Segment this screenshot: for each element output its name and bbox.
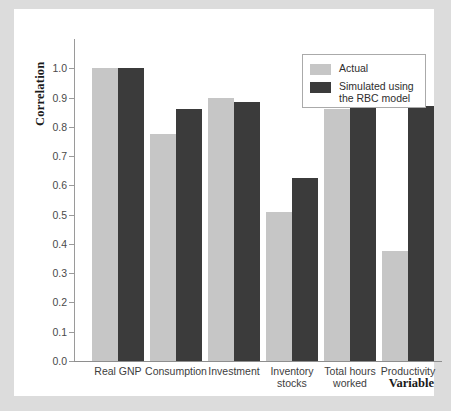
y-axis-tick-mark xyxy=(69,302,74,303)
bar-group xyxy=(208,39,260,361)
legend-label-simulated: Simulated using the RBC model xyxy=(339,81,414,104)
y-axis-tick-mark xyxy=(69,68,74,69)
y-axis-tick-label: 0.6 xyxy=(52,180,67,191)
y-axis-tick-mark xyxy=(69,273,74,274)
legend-item-actual: Actual xyxy=(310,63,368,75)
chart-figure: Correlation 0.00.10.20.30.40.50.60.70.80… xyxy=(0,0,451,411)
y-axis-tick-mark xyxy=(69,156,74,157)
bar-simulated xyxy=(176,109,202,361)
bar-simulated xyxy=(350,81,376,361)
y-axis-tick-mark xyxy=(69,215,74,216)
bar-group xyxy=(150,39,202,361)
bar-actual xyxy=(208,98,234,361)
y-axis-tick-mark xyxy=(69,127,74,128)
bar-simulated xyxy=(118,68,144,361)
y-axis-line xyxy=(74,39,75,361)
bar-actual xyxy=(266,212,292,361)
y-axis-tick-label: 0.3 xyxy=(52,268,67,279)
legend-item-simulated: Simulated using the RBC model xyxy=(310,81,414,104)
bar-actual xyxy=(382,251,408,361)
y-axis-tick-label: 0.7 xyxy=(52,151,67,162)
y-axis-tick-label: 0.4 xyxy=(52,239,67,250)
bar-group xyxy=(92,39,144,361)
y-axis-tick-label: 0.1 xyxy=(52,326,67,337)
y-axis-tick-label: 0.8 xyxy=(52,122,67,133)
x-axis-title: Variable xyxy=(344,376,434,391)
chart-paper: Correlation 0.00.10.20.30.40.50.60.70.80… xyxy=(14,9,434,396)
y-axis-tick-label: 0.9 xyxy=(52,92,67,103)
y-axis-tick-label: 0.5 xyxy=(52,209,67,220)
y-axis-tick-label: 0.2 xyxy=(52,297,67,308)
legend-label-actual: Actual xyxy=(339,63,368,75)
y-axis-tick-label: 1.0 xyxy=(52,63,67,74)
y-axis-tick-mark xyxy=(69,98,74,99)
x-axis-line xyxy=(74,361,442,362)
legend-swatch-actual xyxy=(310,64,331,75)
y-axis-tick-mark xyxy=(69,361,74,362)
bar-actual xyxy=(150,134,176,361)
bar-simulated xyxy=(234,102,260,361)
y-axis-tick-label: 0.0 xyxy=(52,356,67,367)
bar-actual xyxy=(92,68,118,361)
y-axis-tick-mark xyxy=(69,244,74,245)
chart-legend: Actual Simulated using the RBC model xyxy=(302,54,426,108)
bar-actual xyxy=(324,109,350,361)
y-axis-tick-mark xyxy=(69,332,74,333)
y-axis-tick-mark xyxy=(69,185,74,186)
bar-simulated xyxy=(292,178,318,361)
bar-simulated xyxy=(408,106,434,361)
legend-swatch-simulated xyxy=(310,82,331,93)
y-axis-title: Correlation xyxy=(33,39,47,149)
